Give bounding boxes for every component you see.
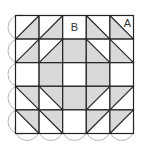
grid-cell	[86, 63, 110, 87]
grid-cell	[86, 86, 110, 110]
grid-cell	[63, 39, 87, 63]
quilt-diagram: BA	[0, 0, 143, 146]
grid-cell	[110, 86, 134, 110]
grid-cell	[16, 110, 40, 134]
grid-cell	[86, 39, 110, 63]
grid-cell	[86, 16, 110, 40]
grid-cell	[63, 86, 87, 110]
grid-cell	[39, 63, 63, 87]
grid-cell	[16, 16, 40, 40]
grid-cell	[16, 63, 40, 87]
grid-cell	[110, 110, 134, 134]
grid-cell	[86, 110, 110, 134]
grid-cell	[16, 86, 40, 110]
grid-cell	[63, 110, 87, 134]
grid-cell	[39, 110, 63, 134]
grid-cell	[39, 16, 63, 40]
grid-cell	[39, 39, 63, 63]
cell-label-b: B	[71, 21, 78, 33]
grid-cell	[39, 86, 63, 110]
grid-cell	[110, 63, 134, 87]
grid-cell	[63, 63, 87, 87]
grid-cell	[110, 39, 134, 63]
grid-cell	[16, 39, 40, 63]
cell-label-a: A	[124, 17, 132, 29]
